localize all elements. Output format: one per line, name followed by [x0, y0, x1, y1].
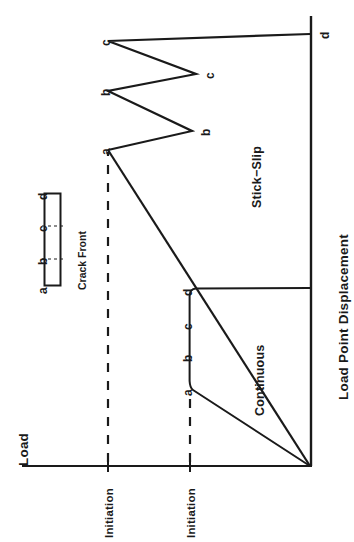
stick-slip-point-b-drop: b [199, 129, 213, 136]
curve-label-continuous: Continuous [253, 345, 267, 416]
continuous-point-a: a [181, 389, 195, 396]
stick-slip-loading-ramp [108, 150, 310, 466]
x-axis-title: Load Point Displacement [336, 234, 351, 400]
crack-front-label-d: d [36, 193, 50, 200]
tick-label-initiation-stick-slip: Initiation [103, 488, 115, 538]
crack-front-specimen-outline [45, 194, 61, 286]
continuous-point-c: c [181, 323, 195, 330]
crack-front-label-c: c [36, 225, 50, 232]
crack-front-caption: Crack Front [76, 231, 88, 290]
y-axis-title: Load [16, 433, 31, 466]
continuous-point-b: b [181, 355, 195, 362]
stick-slip-point-d: d [318, 32, 332, 39]
stick-slip-point-c-peak: c [99, 39, 113, 46]
continuous-point-d: d [181, 289, 195, 296]
tick-label-initiation-continuous: Initiation [185, 488, 197, 538]
figure-canvas: Load Load Point Displacement Initiation … [0, 0, 354, 542]
curve-label-stick-slip: Stick−Slip [250, 146, 264, 208]
crack-front-label-b: b [36, 258, 50, 265]
crack-front-label-a: a [36, 287, 50, 294]
stick-slip-point-c-drop: c [203, 72, 217, 79]
stick-slip-point-b-peak: b [99, 89, 113, 96]
plot-svg [0, 0, 354, 542]
stick-slip-point-a: a [99, 148, 113, 155]
